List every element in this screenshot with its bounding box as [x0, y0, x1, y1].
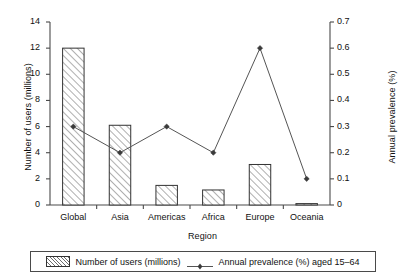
- chart-legend: Number of users (millions) Annual preval…: [30, 251, 376, 272]
- bar-europe: [249, 164, 270, 205]
- line-series: [71, 46, 310, 182]
- legend-item-users: Number of users (millions): [46, 256, 180, 267]
- legend-label-users: Number of users (millions): [75, 257, 180, 267]
- plot-area: [0, 0, 405, 275]
- legend-item-prevalence: Annual prevalence (%) aged 15–64: [187, 257, 359, 267]
- bar-americas: [156, 185, 177, 205]
- chart-figure: Number of users (millions) Annual preval…: [0, 0, 405, 275]
- bar-asia: [109, 125, 130, 205]
- legend-label-prevalence: Annual prevalence (%) aged 15–64: [218, 257, 359, 267]
- data-point-oceania: [304, 176, 309, 181]
- line-diamond-icon: [187, 257, 213, 266]
- data-point-americas: [164, 124, 169, 129]
- bar-oceania: [296, 204, 317, 205]
- hatched-swatch-icon: [46, 256, 70, 267]
- bar-series: [63, 48, 318, 205]
- prevalence-line: [73, 48, 306, 179]
- bar-africa: [203, 190, 224, 205]
- data-point-africa: [211, 150, 216, 155]
- axes: [46, 22, 334, 209]
- data-point-europe: [257, 46, 262, 51]
